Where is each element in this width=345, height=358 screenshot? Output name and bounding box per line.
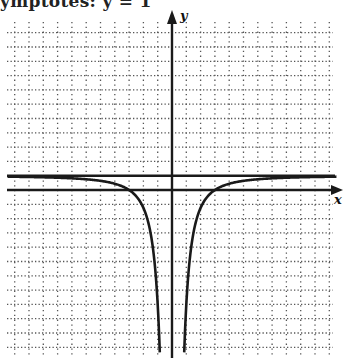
y-axis-arrow-icon (167, 10, 177, 24)
graph-plot (0, 0, 345, 358)
x-axis-label: x (334, 192, 342, 207)
y-axis-label: y (180, 8, 188, 23)
curve-right-branch (184, 177, 336, 353)
curve-left-branch (8, 177, 160, 353)
